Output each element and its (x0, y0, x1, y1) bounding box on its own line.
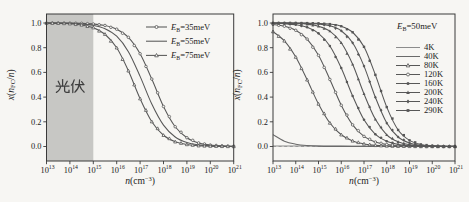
marker-square-filled (283, 22, 285, 24)
marker-circle-open (186, 136, 189, 139)
marker-square-filled (317, 22, 319, 24)
marker-circle-open (323, 66, 326, 69)
marker-square-filled (391, 117, 393, 119)
marker-square-filled (277, 22, 279, 24)
marker-circle-open (380, 142, 383, 145)
marker-circle-open (174, 125, 177, 128)
marker-circle-filled (380, 137, 383, 140)
marker-circle-filled (351, 95, 354, 98)
marker-circle-open (357, 129, 360, 132)
y-tick-label: 0.4 (31, 93, 42, 102)
marker-circle-open (156, 92, 159, 95)
marker-square-filled (437, 145, 439, 147)
marker-circle-filled (374, 133, 377, 136)
legend-item-label: EB=35meV (170, 22, 211, 33)
marker-circle-filled (357, 107, 360, 110)
legend-item-label: 290K (424, 105, 444, 115)
marker-circle-filled (312, 29, 315, 32)
marker-square-filled (351, 31, 353, 33)
marker-circle-filled (407, 82, 410, 85)
marker-circle-open (180, 131, 183, 134)
marker-circle-open (300, 33, 303, 36)
marker-circle-open (162, 105, 165, 108)
y-tick-label: 0.8 (31, 44, 41, 53)
marker-circle-filled (329, 45, 332, 48)
marker-circle-filled (306, 26, 309, 29)
marker-circle-open (407, 73, 410, 76)
marker-circle-open (110, 26, 113, 29)
marker-circle-open (127, 36, 130, 39)
marker-square-filled (329, 23, 331, 25)
marker-circle-open (374, 141, 377, 144)
marker-circle-open (329, 78, 332, 81)
marker-circle-open (115, 28, 118, 31)
marker-circle-filled (385, 140, 388, 143)
marker-circle-filled (317, 32, 320, 35)
marker-circle-filled (334, 56, 337, 59)
marker-circle-open (155, 26, 158, 29)
marker-square-filled (442, 145, 444, 147)
marker-square-filled (295, 22, 297, 24)
marker-circle-open (340, 104, 343, 107)
y-tick-label: 1.0 (258, 19, 268, 28)
marker-square-filled (368, 60, 370, 62)
marker-circle-open (139, 52, 142, 55)
marker-square-filled (425, 144, 427, 146)
marker-square-filled (431, 145, 433, 147)
marker-circle-open (168, 115, 171, 118)
marker-square-filled (289, 22, 291, 24)
legend-item-label: EB=75meV (170, 50, 211, 61)
marker-square-filled (363, 46, 365, 48)
shaded-band (47, 14, 94, 161)
marker-circle-open (151, 78, 154, 81)
marker-circle-filled (391, 142, 394, 145)
marker-square-filled (300, 22, 302, 24)
y-tick-label: 0.0 (258, 142, 268, 151)
marker-square-filled (312, 22, 314, 24)
marker-circle-filled (300, 25, 303, 28)
marker-circle-filled (346, 81, 349, 84)
marker-circle-open (121, 32, 124, 35)
marker-circle-open (283, 25, 286, 28)
marker-square-filled (407, 109, 410, 112)
legend: EB=35meVEB=55meVEB=75meV (146, 22, 211, 61)
marker-square-filled (420, 143, 422, 145)
y-tick-label: 0.0 (31, 142, 41, 151)
legend-title: EB=50meV (396, 21, 438, 32)
marker-circle-open (133, 44, 136, 47)
marker-circle-open (391, 144, 394, 147)
marker-circle-filled (368, 126, 371, 129)
marker-square-filled (397, 129, 399, 131)
marker-circle-filled (397, 143, 400, 146)
legend-item-label: EB=55meV (170, 36, 211, 47)
marker-circle-open (368, 138, 371, 141)
marker-circle-open (385, 143, 388, 146)
figure-canvas: 101310141015101610171018101910201021n(cm… (0, 0, 469, 202)
figure-page: 101310141015101610171018101910201021n(cm… (0, 0, 469, 202)
marker-circle-open (289, 27, 292, 30)
y-tick-label: 0.6 (31, 68, 41, 77)
marker-circle-open (98, 23, 101, 26)
photovoltaic-region (47, 14, 94, 161)
y-tick-label: 0.8 (258, 44, 268, 53)
marker-circle-open (191, 139, 194, 142)
marker-square-filled (403, 134, 405, 136)
marker-square-filled (340, 25, 342, 27)
y-tick-label: 0.4 (258, 93, 269, 102)
marker-square-filled (414, 141, 416, 143)
y-tick-label: 0.6 (258, 68, 268, 77)
marker-circle-open (363, 135, 366, 138)
marker-circle-open (351, 124, 354, 127)
marker-circle-open (294, 29, 297, 32)
marker-square-filled (374, 74, 376, 76)
marker-circle-open (317, 54, 320, 57)
marker-square-filled (306, 22, 308, 24)
marker-circle-open (334, 91, 337, 94)
marker-square-filled (448, 145, 450, 147)
marker-square-filled (357, 38, 359, 40)
y-tick-label: 0.2 (31, 118, 41, 127)
marker-circle-filled (340, 67, 343, 70)
marker-square-filled (323, 23, 325, 25)
marker-square-filled (334, 24, 336, 26)
marker-circle-filled (323, 38, 326, 41)
